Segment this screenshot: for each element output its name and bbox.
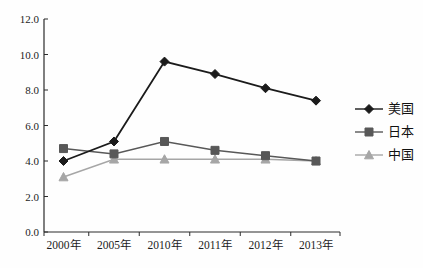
series-japan-line	[64, 141, 317, 161]
y-tick-label: 12.0	[20, 13, 40, 25]
chart-figure: 0.02.04.06.08.010.012.02000年2005年2010年20…	[0, 0, 423, 268]
series-us-marker	[59, 157, 68, 166]
series-japan-marker	[161, 137, 169, 145]
square-icon	[355, 125, 383, 139]
y-tick-label: 4.0	[25, 155, 39, 167]
series-japan-marker	[110, 150, 118, 158]
x-tick-label: 2012年	[249, 238, 283, 251]
x-tick-label: 2010年	[148, 238, 182, 251]
x-tick-label: 2005年	[97, 238, 131, 251]
series-japan-marker	[312, 157, 320, 165]
series-us-marker	[211, 70, 220, 79]
legend-item-us: 美国	[355, 102, 414, 116]
series-china-line	[64, 159, 317, 177]
series-us-marker	[261, 84, 270, 93]
x-tick-label: 2011年	[198, 238, 232, 251]
diamond-icon	[355, 102, 383, 116]
series-us-marker	[312, 96, 321, 105]
legend-label-us: 美国	[388, 102, 414, 116]
series-japan-marker	[262, 152, 270, 160]
series-japan-marker	[60, 145, 68, 153]
legend-label-japan: 日本	[388, 125, 414, 139]
x-tick-label: 2013年	[299, 238, 333, 251]
y-tick-label: 10.0	[20, 49, 40, 61]
series-us-marker	[110, 137, 119, 146]
triangle-icon	[355, 148, 383, 162]
y-tick-label: 6.0	[25, 120, 39, 132]
series-us-marker	[160, 57, 169, 66]
legend-label-china: 中国	[388, 148, 414, 162]
series-japan-marker	[211, 146, 219, 154]
y-tick-label: 0.0	[25, 226, 39, 238]
y-tick-label: 2.0	[25, 191, 39, 203]
chart-legend: 美国 日本 中国	[355, 102, 414, 162]
y-tick-label: 8.0	[25, 84, 39, 96]
legend-item-china: 中国	[355, 148, 414, 162]
legend-item-japan: 日本	[355, 125, 414, 139]
x-tick-label: 2000年	[47, 238, 81, 251]
